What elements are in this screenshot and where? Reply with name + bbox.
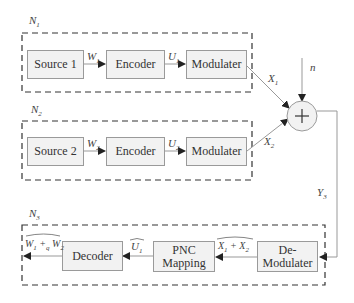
node-label-n2: N2 bbox=[31, 103, 42, 118]
arrow-y3 bbox=[317, 111, 337, 257]
modulator-1-block: Modulater bbox=[186, 50, 247, 79]
pnc-mapping-block: PNC Mapping bbox=[153, 241, 215, 272]
signal-y3: Y3 bbox=[317, 186, 327, 201]
decoder-block: Decoder bbox=[62, 241, 123, 271]
node-label-n1: N1 bbox=[29, 14, 40, 29]
noise-label: n bbox=[310, 61, 316, 73]
signal-u1: U1 bbox=[168, 50, 179, 65]
signal-w2: W2 bbox=[87, 137, 100, 152]
modulator-2-block: Modulater bbox=[186, 137, 247, 166]
node-label-n3: N3 bbox=[29, 207, 40, 222]
signal-x1-plus-x2: X1 + X2 bbox=[218, 240, 249, 254]
source-1-block: Source 1 bbox=[27, 50, 84, 79]
encoder-2-block: Encoder bbox=[106, 137, 165, 166]
demodulator-block: De-Modulater bbox=[257, 241, 318, 272]
signal-w1: W1 bbox=[87, 50, 100, 65]
signal-x2: X2 bbox=[264, 135, 274, 150]
signal-output: W1 +q W2 bbox=[25, 238, 64, 252]
signal-u2: U2 bbox=[168, 137, 179, 152]
encoder-1-block: Encoder bbox=[106, 50, 165, 79]
source-2-block: Source 2 bbox=[27, 137, 84, 166]
signal-u1-hat: U1 bbox=[131, 240, 142, 255]
signal-x1: X1 bbox=[268, 72, 278, 87]
